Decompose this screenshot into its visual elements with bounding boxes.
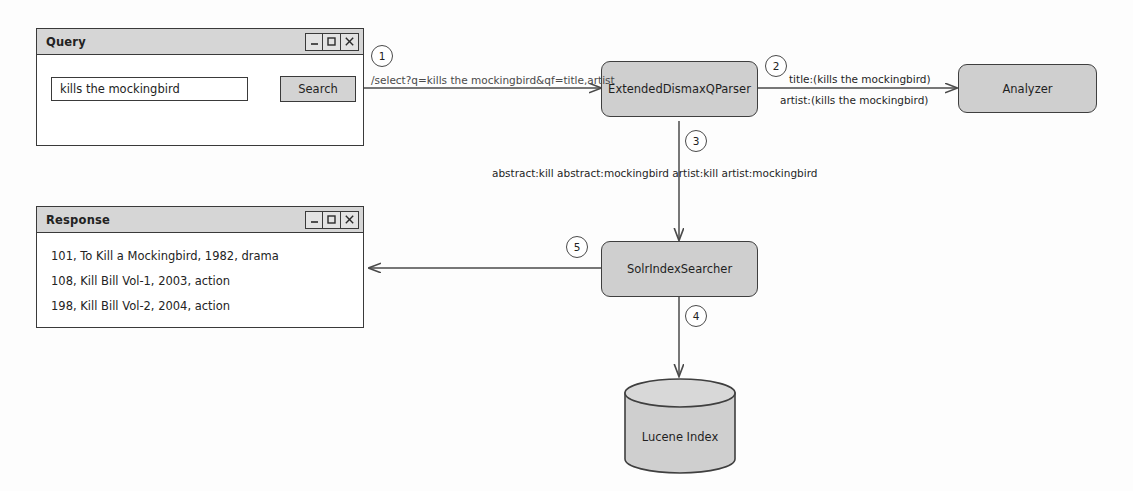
response-row: 198, Kill Bill Vol-2, 2004, action (51, 299, 230, 313)
response-window-title: Response (46, 213, 306, 227)
step-badge-4: 4 (685, 305, 707, 327)
node-solr-index-searcher[interactable]: SolrIndexSearcher (601, 241, 758, 297)
response-window: Response (36, 206, 364, 328)
node-analyzer[interactable]: Analyzer (958, 64, 1097, 113)
search-button[interactable]: Search (280, 76, 356, 102)
query-window-body: kills the mockingbird Search (37, 55, 363, 145)
maximize-icon[interactable] (322, 33, 341, 51)
edge-label-analyzed-query: abstract:kill abstract:mockingbird artis… (492, 167, 817, 179)
close-icon[interactable] (340, 211, 359, 229)
node-lucene-index[interactable]: Lucene Index (622, 378, 738, 474)
query-window-buttons (306, 33, 359, 51)
node-lucene-index-label: Lucene Index (622, 430, 738, 444)
edge-label-request-url: /select?q=kills the mockingbird&qf=title… (371, 74, 615, 86)
close-icon[interactable] (340, 33, 359, 51)
response-window-titlebar: Response (37, 207, 363, 233)
response-window-buttons (306, 211, 359, 229)
response-window-body: 101, To Kill a Mockingbird, 1982, drama … (37, 233, 363, 327)
maximize-icon[interactable] (322, 211, 341, 229)
step-badge-2: 2 (765, 55, 787, 77)
minimize-icon[interactable] (305, 211, 324, 229)
query-window-title: Query (46, 35, 306, 49)
edge-label-analyze-title: title:(kills the mockingbird) (789, 73, 931, 85)
node-extended-dismax-qparser[interactable]: ExtendedDismaxQParser (601, 61, 758, 117)
response-row: 108, Kill Bill Vol-1, 2003, action (51, 274, 230, 288)
response-row: 101, To Kill a Mockingbird, 1982, drama (51, 249, 279, 263)
step-badge-1: 1 (371, 45, 393, 67)
step-badge-3: 3 (685, 130, 707, 152)
query-window: Query (36, 28, 364, 146)
diagram-canvas: Query (0, 0, 1133, 491)
edge-label-analyze-artist: artist:(kills the mockingbird) (780, 94, 928, 106)
query-window-titlebar: Query (37, 29, 363, 55)
minimize-icon[interactable] (305, 33, 324, 51)
step-badge-5: 5 (566, 236, 588, 258)
search-input[interactable]: kills the mockingbird (51, 77, 248, 101)
